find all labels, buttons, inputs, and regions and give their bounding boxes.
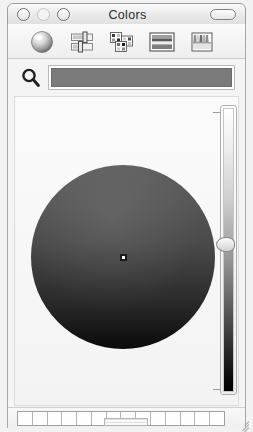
toolbar-item-color-palettes[interactable] — [107, 28, 137, 55]
color-wheel[interactable] — [31, 165, 215, 349]
color-preview-well[interactable] — [48, 65, 235, 90]
colors-window: Colors — [0, 0, 253, 432]
palette-swatch[interactable] — [195, 412, 210, 425]
color-palettes-icon — [109, 29, 135, 55]
color-preview-row — [8, 59, 245, 95]
title-bar: Colors — [7, 3, 246, 25]
toolbar-toggle-button[interactable] — [210, 9, 236, 20]
window-body — [7, 24, 246, 428]
brightness-slider-thumb[interactable] — [216, 237, 235, 252]
palette-swatch[interactable] — [18, 412, 33, 425]
palette-swatch[interactable] — [33, 412, 48, 425]
brightness-tick-bottom — [213, 389, 220, 390]
color-wheel-marker[interactable] — [120, 254, 127, 261]
color-wheel-icon — [29, 29, 55, 55]
color-sliders-icon — [69, 29, 95, 55]
magnifier-icon[interactable] — [20, 67, 42, 89]
palette-swatch[interactable] — [181, 412, 196, 425]
crayons-icon — [189, 29, 215, 55]
palette-grab-handle[interactable] — [104, 418, 148, 426]
color-wheel-area — [14, 96, 239, 406]
palette-swatch[interactable] — [62, 412, 77, 425]
image-palettes-icon — [148, 29, 176, 55]
palette-swatch[interactable] — [77, 412, 92, 425]
toolbar-item-color-sliders[interactable] — [67, 28, 97, 55]
palette-swatch[interactable] — [210, 412, 224, 425]
palette-swatch[interactable] — [166, 412, 181, 425]
brightness-slider[interactable] — [220, 105, 237, 395]
color-preview-swatch — [51, 68, 232, 87]
toolbar-item-image-palettes[interactable] — [147, 28, 177, 55]
brightness-tick-top — [213, 112, 220, 113]
palette-swatch[interactable] — [151, 412, 166, 425]
toolbar-item-crayons[interactable] — [187, 28, 217, 55]
palette-swatch[interactable] — [48, 412, 63, 425]
resize-grip[interactable] — [236, 416, 249, 429]
toolbar — [8, 24, 245, 59]
toolbar-item-color-wheel[interactable] — [27, 28, 57, 55]
